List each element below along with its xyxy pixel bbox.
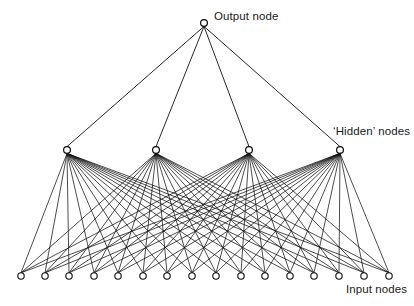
output-node-0 [201,20,208,27]
edge-input-8-hidden-2 [216,153,249,272]
edge-input-0-hidden-3 [21,153,340,272]
input-node-5 [140,273,146,279]
output-node-label: Output node [214,10,278,23]
edge-input-0-hidden-0 [21,153,67,272]
input-node-0 [18,273,24,279]
hidden-node-2 [246,147,253,154]
edge-input-7-hidden-2 [192,153,249,272]
edge-hidden-3-output [204,26,340,146]
input-node-4 [115,273,121,279]
edge-input-3-hidden-3 [94,153,340,272]
input-node-15 [386,273,392,279]
input-node-1 [42,273,48,279]
input-node-14 [361,273,367,279]
input-node-2 [66,273,72,279]
edge-input-12-hidden-2 [249,153,314,272]
hidden-nodes-label: ‘Hidden’ nodes [333,125,410,138]
edge-input-14-hidden-3 [340,153,364,272]
hidden-node-0 [64,147,71,154]
neural-network-figure: Output node ‘Hidden’ nodes Input nodes [0,0,414,306]
edge-input-15-hidden-3 [340,153,389,272]
input-node-8 [213,273,219,279]
input-node-7 [189,273,195,279]
hidden-node-group [64,147,344,154]
edge-input-13-hidden-0 [67,153,339,272]
input-node-10 [262,273,268,279]
input-node-9 [238,273,244,279]
input-node-group [18,273,392,279]
input-node-12 [311,273,317,279]
network-graph [0,0,414,306]
edge-input-2-hidden-3 [69,153,340,272]
input-node-6 [164,273,170,279]
output-node-group [201,20,208,27]
edge-hidden-1-output [156,26,204,146]
input-node-13 [336,273,342,279]
hidden-to-output-edges [67,26,340,146]
edge-hidden-2-output [204,26,249,146]
edge-input-4-hidden-1 [118,153,156,272]
hidden-node-1 [153,147,160,154]
input-to-hidden-edges [21,153,389,272]
input-node-3 [91,273,97,279]
input-node-11 [287,273,293,279]
hidden-node-3 [337,147,344,154]
input-nodes-label: Input nodes [346,283,407,296]
edge-hidden-0-output [67,26,204,146]
